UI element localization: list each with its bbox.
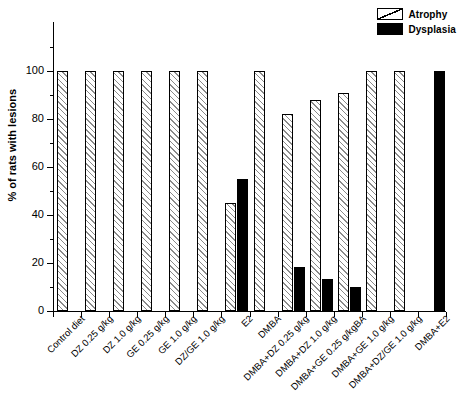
bar-chart: Atrophy Dysplasia % of rats with lesions… [0, 0, 464, 411]
y-tick-minor-110 [50, 47, 53, 48]
y-tick-label-20: 20 [32, 256, 44, 268]
y-tick-minor-70 [50, 143, 53, 144]
bar-atrophy [197, 71, 208, 311]
y-tick-label-0: 0 [38, 304, 44, 316]
y-tick-minor-50 [50, 191, 53, 192]
bar-dysplasia [434, 71, 445, 311]
y-tick-20: 20 [47, 263, 53, 264]
bar-dysplasia [294, 267, 305, 311]
bar-atrophy [282, 114, 293, 311]
bar-group [251, 22, 279, 311]
y-tick-40: 40 [47, 215, 53, 216]
y-tick-label-60: 60 [32, 160, 44, 172]
bar-atrophy [169, 71, 180, 311]
bar-atrophy [141, 71, 152, 311]
bar-atrophy [225, 203, 236, 311]
bar-group [419, 22, 447, 311]
legend-swatch-atrophy-icon [377, 8, 403, 20]
bar-group [166, 22, 194, 311]
y-tick-60: 60 [47, 167, 53, 168]
y-tick-label-100: 100 [26, 64, 44, 76]
bar-dysplasia [237, 179, 248, 311]
bar-group [363, 22, 391, 311]
legend-label-atrophy: Atrophy [408, 9, 447, 20]
x-axis-label: E2 [239, 313, 255, 329]
bar-group [82, 22, 110, 311]
legend-item-atrophy: Atrophy [377, 8, 447, 20]
y-axis-title-text: % of rats with lesions [6, 89, 18, 201]
bar-group [54, 22, 82, 311]
y-tick-minor-90 [50, 95, 53, 96]
y-tick-label-80: 80 [32, 112, 44, 124]
plot-area: 020406080100 [53, 22, 446, 312]
bar-atrophy [85, 71, 96, 311]
bar-atrophy [113, 71, 124, 311]
bar-group [307, 22, 335, 311]
y-tick-minor-30 [50, 239, 53, 240]
bar-atrophy [254, 71, 265, 311]
bar-atrophy [394, 71, 405, 311]
bar-dysplasia [350, 287, 361, 311]
y-axis-title: % of rats with lesions [6, 0, 18, 290]
bar-group [279, 22, 307, 311]
bar-group [110, 22, 138, 311]
bar-dysplasia [322, 279, 333, 311]
y-tick-minor-10 [50, 287, 53, 288]
y-tick-label-40: 40 [32, 208, 44, 220]
bar-group [222, 22, 250, 311]
bar-group [335, 22, 363, 311]
y-tick-80: 80 [47, 119, 53, 120]
bar-atrophy [57, 71, 68, 311]
bar-group [138, 22, 166, 311]
bars-layer [54, 22, 446, 311]
bar-atrophy [310, 100, 321, 311]
x-axis-labels: Control dietDZ 0.25 g/kgDZ 1.0 g/kgGE 0.… [53, 313, 446, 411]
bar-atrophy [338, 93, 349, 311]
bar-group [194, 22, 222, 311]
y-tick-100: 100 [47, 71, 53, 72]
bar-group [391, 22, 419, 311]
bar-atrophy [366, 71, 377, 311]
